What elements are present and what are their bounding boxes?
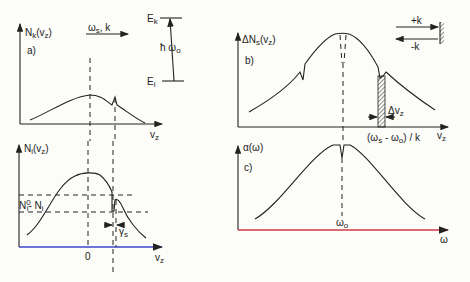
beam-label: ωs, k bbox=[88, 22, 111, 35]
resonance-position-label: (ωs - ωo) / k bbox=[367, 132, 421, 145]
panel-ll-ylabel: Ni(vz) bbox=[24, 143, 49, 156]
panel-c-xlabel: ω bbox=[440, 234, 448, 245]
panel-a-xlabel: vz bbox=[150, 129, 159, 142]
panel-b: ΔNs(vz) b) vz Δvz (ωs - ωo) / k +k -k bbox=[238, 15, 448, 145]
central-dip bbox=[340, 35, 346, 63]
depth-label: N0i- Ni bbox=[19, 198, 44, 213]
panel-a-label: a) bbox=[27, 45, 36, 56]
panel-lower-left: Ni(vz) γs N0i- Ni 0 vz bbox=[19, 141, 164, 272]
figure: Nk(vz) a) vz ωs, k Ek Ei ħ ωo Ni(vz) γs … bbox=[0, 0, 470, 282]
panel-c-label: c) bbox=[244, 162, 252, 173]
minus-k-label: -k bbox=[411, 41, 420, 52]
panel-b-curve bbox=[249, 33, 435, 112]
panel-c-curve bbox=[255, 145, 425, 219]
panel-a-ylabel: Nk(vz) bbox=[25, 27, 52, 40]
panel-c: α(ω) c) ωo ω bbox=[238, 142, 448, 245]
panel-ll-xlabel: vz bbox=[155, 252, 164, 265]
origin-tick-label: 0 bbox=[85, 251, 91, 262]
panel-a: Nk(vz) a) vz ωs, k Ek Ei ħ ωo bbox=[20, 13, 184, 142]
panel-c-ylabel: α(ω) bbox=[243, 142, 263, 153]
panel-b-label: b) bbox=[245, 55, 254, 66]
dv-label: Δvz bbox=[388, 105, 404, 118]
width-label: γs bbox=[119, 226, 128, 239]
mirror-hatch bbox=[440, 22, 444, 44]
center-frequency-label: ωo bbox=[336, 217, 349, 230]
panel-b-ylabel: ΔNs(vz) bbox=[242, 34, 276, 47]
panel-b-xlabel: vz bbox=[437, 130, 446, 143]
transition-label: ħ ωo bbox=[160, 42, 181, 55]
level-lower-label: Ei bbox=[147, 76, 156, 89]
level-upper-label: Ek bbox=[147, 13, 159, 26]
plus-k-label: +k bbox=[411, 15, 423, 26]
velocity-slice bbox=[378, 76, 385, 127]
panel-ll-curve bbox=[27, 173, 146, 238]
panel-a-curve bbox=[30, 95, 145, 123]
